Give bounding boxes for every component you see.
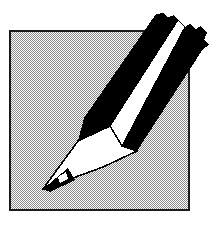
pencil-illustration (0, 0, 213, 232)
icon-canvas (0, 0, 213, 232)
